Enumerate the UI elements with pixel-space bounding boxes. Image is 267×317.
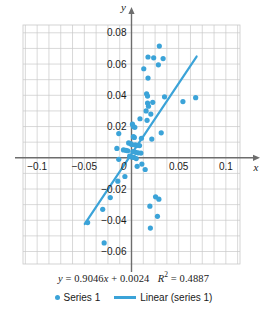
data-point — [180, 99, 185, 104]
data-point — [144, 118, 149, 123]
legend-item-series-1[interactable]: Series 1 — [55, 292, 101, 304]
equation-equals: = — [65, 273, 71, 284]
data-point — [143, 167, 148, 172]
regression-equation: y = 0.9046x + 0.0024 R2 = 0.4887 — [0, 268, 267, 286]
data-point — [148, 225, 153, 230]
data-point — [137, 143, 142, 148]
data-point — [122, 174, 127, 179]
data-point — [141, 66, 146, 71]
legend-line-icon — [114, 296, 136, 298]
data-point — [151, 55, 156, 60]
data-point — [108, 195, 113, 200]
chart-caption: y = 0.9046x + 0.0024 R2 = 0.4887 Series … — [0, 268, 267, 304]
y-tick-label: −0.02 — [101, 184, 127, 195]
data-point — [193, 95, 198, 100]
plot-area: xy−0.1−0.0500.050.1−0.06−0.04−0.020.020.… — [0, 0, 267, 272]
y-tick-label: 0.08 — [107, 27, 127, 38]
legend-dot-icon — [55, 295, 60, 300]
data-point — [139, 161, 144, 166]
data-point — [155, 214, 160, 219]
legend-label-series-1: Series 1 — [64, 292, 101, 304]
x-tick-label: 0 — [121, 161, 127, 172]
data-point — [144, 108, 149, 113]
x-tick-label: 0.1 — [219, 161, 233, 172]
scatter-chart-figure: xy−0.1−0.0500.050.1−0.06−0.04−0.020.020.… — [0, 0, 267, 317]
data-point — [114, 146, 119, 151]
data-point — [139, 136, 144, 141]
data-point — [132, 135, 137, 140]
data-point — [135, 164, 140, 169]
y-tick-label: −0.04 — [101, 215, 127, 226]
r-squared-equals: = — [171, 273, 177, 284]
data-point — [149, 136, 154, 141]
x-tick-label: −0.1 — [27, 161, 47, 172]
data-point — [145, 93, 150, 98]
equation-plus: + — [111, 273, 117, 284]
equation-intercept: 0.0024 — [120, 273, 149, 284]
r-squared-exponent: 2 — [164, 270, 168, 279]
y-tick-label: 0.06 — [107, 59, 127, 70]
y-axis-label: y — [120, 1, 126, 13]
r-squared-value: 0.4887 — [180, 273, 209, 284]
data-point — [134, 156, 139, 161]
data-point — [102, 240, 107, 245]
x-axis-label: x — [253, 161, 259, 173]
data-point — [146, 104, 151, 109]
data-point — [162, 94, 167, 99]
data-point — [150, 100, 155, 105]
data-point — [145, 54, 150, 59]
data-point — [85, 220, 90, 225]
y-tick-label: 0.02 — [107, 121, 127, 132]
legend-label-linear-fit: Linear (series 1) — [140, 292, 212, 304]
data-point — [156, 197, 161, 202]
chart-legend: Series 1 Linear (series 1) — [0, 292, 267, 304]
equation-y-symbol: y — [58, 273, 63, 284]
data-point — [157, 43, 162, 48]
equation-x-symbol: x — [104, 273, 109, 284]
data-point — [132, 125, 137, 130]
x-tick-label: −0.05 — [72, 161, 98, 172]
y-tick-label: 0.04 — [107, 90, 127, 101]
data-point — [147, 204, 152, 209]
data-point — [145, 76, 150, 81]
data-point — [100, 207, 105, 212]
data-point — [138, 150, 143, 155]
equation-slope: 0.9046 — [74, 273, 103, 284]
legend-item-linear-fit[interactable]: Linear (series 1) — [114, 292, 212, 304]
data-point — [148, 111, 153, 116]
chart-canvas: xy−0.1−0.0500.050.1−0.06−0.04−0.020.020.… — [0, 0, 267, 272]
data-point — [159, 130, 164, 135]
y-tick-label: −0.06 — [101, 246, 127, 257]
tick-labels: xy−0.1−0.0500.050.1−0.06−0.04−0.020.020.… — [27, 1, 258, 257]
axes — [15, 7, 260, 272]
x-tick-label: 0.05 — [169, 161, 189, 172]
data-point — [156, 62, 161, 67]
y-axis-arrow-icon — [128, 7, 134, 14]
data-point — [137, 116, 142, 121]
data-point — [161, 56, 166, 61]
data-point — [125, 148, 130, 153]
